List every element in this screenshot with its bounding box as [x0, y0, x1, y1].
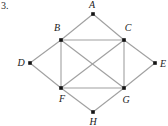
graph-vertex-f: [59, 86, 63, 90]
graph-drawing: [0, 0, 168, 126]
vertex-label-d: D: [17, 58, 24, 68]
vertex-label-h: H: [89, 117, 96, 126]
graph-edge-e-g: [124, 63, 155, 88]
graph-edge-c-e: [124, 40, 155, 63]
edge-layer: [30, 14, 155, 112]
graph-vertex-d: [28, 61, 32, 65]
graph-figure: 3. ABCDEFGH: [0, 0, 168, 126]
graph-edge-f-h: [61, 88, 93, 112]
graph-edge-b-d: [30, 40, 61, 63]
vertex-layer: [28, 12, 157, 114]
vertex-label-e: E: [160, 59, 166, 69]
graph-edge-a-b: [61, 14, 93, 40]
vertex-label-b: B: [54, 23, 60, 33]
graph-vertex-a: [91, 12, 95, 16]
vertex-label-c: C: [125, 23, 132, 33]
vertex-label-g: G: [122, 95, 129, 105]
graph-vertex-h: [91, 110, 95, 114]
graph-vertex-c: [122, 38, 126, 42]
graph-edge-d-f: [30, 63, 61, 88]
graph-vertex-g: [122, 86, 126, 90]
graph-edge-a-c: [93, 14, 124, 40]
graph-vertex-b: [59, 38, 63, 42]
graph-edge-g-h: [93, 88, 124, 112]
graph-vertex-e: [153, 61, 157, 65]
vertex-label-f: F: [59, 94, 65, 104]
vertex-label-a: A: [89, 0, 95, 10]
